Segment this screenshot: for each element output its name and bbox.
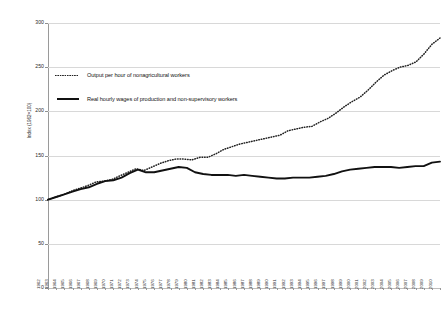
x-tick-mark (187, 288, 188, 290)
x-tick-mark (318, 288, 319, 290)
x-tick-label: 1981 (191, 261, 196, 289)
x-tick-mark (326, 288, 327, 290)
x-tick-mark (162, 288, 163, 290)
x-tick-label: 2004 (379, 261, 384, 289)
x-tick-label: 1986 (232, 261, 237, 289)
x-tick-label: 1991 (272, 261, 277, 289)
series-plot (48, 23, 440, 288)
x-tick-mark (383, 288, 384, 290)
x-tick-mark (146, 288, 147, 290)
x-tick-label: 1980 (183, 261, 188, 289)
x-tick-label: 1970 (101, 261, 106, 289)
x-tick-label: 1997 (321, 261, 326, 289)
x-tick-mark (269, 288, 270, 290)
x-tick-label: 1983 (207, 261, 212, 289)
legend-item-output: Output per hour of nonagricultural worke… (55, 68, 315, 82)
x-tick-label: 1993 (289, 261, 294, 289)
x-tick-label: 1977 (158, 261, 163, 289)
x-tick-mark (138, 288, 139, 290)
x-tick-label: 2007 (403, 261, 408, 289)
x-tick-mark (424, 288, 425, 290)
x-tick-mark (440, 288, 441, 290)
x-tick-mark (293, 288, 294, 290)
x-tick-mark (179, 288, 180, 290)
x-tick-mark (154, 288, 155, 290)
x-tick-mark (375, 288, 376, 290)
dotted-line-swatch-icon (55, 71, 81, 79)
x-tick-label: 1985 (223, 261, 228, 289)
x-tick-label: 1992 (281, 261, 286, 289)
x-tick-label: 1971 (109, 261, 114, 289)
x-tick-label: 1976 (150, 261, 155, 289)
productivity-wages-chart: Index (1962=100) 050100150200250300 1962… (0, 0, 448, 319)
x-tick-label: 1972 (117, 261, 122, 289)
x-tick-mark (64, 288, 65, 290)
x-tick-label: 1999 (338, 261, 343, 289)
x-tick-mark (130, 288, 131, 290)
x-tick-mark (236, 288, 237, 290)
x-tick-mark (171, 288, 172, 290)
x-tick-label: 2003 (370, 261, 375, 289)
x-tick-label: 1975 (142, 261, 147, 289)
y-axis-title: Index (1962=100) (27, 86, 32, 156)
x-tick-mark (391, 288, 392, 290)
x-tick-mark (350, 288, 351, 290)
x-tick-label: 1963 (44, 261, 49, 289)
x-tick-label: 1966 (68, 261, 73, 289)
x-tick-labels-group: 1962196319641965196619671968196919701971… (48, 289, 440, 319)
x-tick-mark (195, 288, 196, 290)
x-tick-label: 1967 (76, 261, 81, 289)
x-tick-mark (301, 288, 302, 290)
series-line-wages (48, 162, 440, 200)
x-tick-label: 1979 (174, 261, 179, 289)
x-tick-mark (244, 288, 245, 290)
x-tick-mark (277, 288, 278, 290)
x-tick-mark (97, 288, 98, 290)
x-tick-mark (285, 288, 286, 290)
x-tick-label: 1996 (313, 261, 318, 289)
x-tick-label: 1974 (134, 261, 139, 289)
x-tick-mark (203, 288, 204, 290)
x-tick-label: 1982 (199, 261, 204, 289)
y-tick-label: 100 (14, 197, 44, 202)
y-tick-label: 300 (14, 20, 44, 25)
y-tick-label: 250 (14, 64, 44, 69)
x-tick-mark (416, 288, 417, 290)
x-tick-mark (334, 288, 335, 290)
x-tick-mark (113, 288, 114, 290)
x-tick-mark (105, 288, 106, 290)
x-tick-label: 1989 (256, 261, 261, 289)
x-tick-mark (81, 288, 82, 290)
x-tick-label: 1962 (36, 261, 41, 289)
x-tick-label: 1965 (60, 261, 65, 289)
x-tick-label: 1984 (215, 261, 220, 289)
x-tick-mark (407, 288, 408, 290)
x-tick-mark (342, 288, 343, 290)
x-tick-mark (309, 288, 310, 290)
x-tick-label: 2002 (362, 261, 367, 289)
x-tick-label: 1995 (305, 261, 310, 289)
x-tick-mark (56, 288, 57, 290)
x-tick-mark (73, 288, 74, 290)
chart-legend: Output per hour of nonagricultural worke… (55, 68, 315, 116)
x-tick-label: 2001 (354, 261, 359, 289)
x-tick-label: 1973 (125, 261, 130, 289)
legend-item-wages: Real hourly wages of production and non-… (55, 92, 315, 106)
x-tick-mark (367, 288, 368, 290)
x-tick-label: 1969 (93, 261, 98, 289)
legend-item-label: Real hourly wages of production and non-… (87, 96, 237, 102)
solid-line-swatch-icon (55, 95, 81, 103)
x-tick-mark (220, 288, 221, 290)
x-tick-mark (211, 288, 212, 290)
x-tick-mark (89, 288, 90, 290)
x-tick-label: 1978 (166, 261, 171, 289)
x-tick-label: 2010 (428, 261, 433, 289)
x-tick-label: 2005 (387, 261, 392, 289)
x-tick-label: 2009 (419, 261, 424, 289)
x-tick-label: 1990 (264, 261, 269, 289)
x-tick-mark (122, 288, 123, 290)
x-tick-label: 2008 (411, 261, 416, 289)
x-tick-mark (432, 288, 433, 290)
x-tick-mark (260, 288, 261, 290)
x-tick-label: 1998 (330, 261, 335, 289)
